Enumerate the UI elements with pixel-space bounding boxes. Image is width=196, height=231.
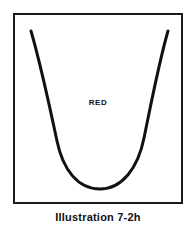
figure-caption: Illustration 7-2h xyxy=(0,210,196,224)
illustration-figure: RED xyxy=(0,0,196,231)
region-label-red: RED xyxy=(13,98,183,108)
figure-frame-border xyxy=(13,13,183,204)
